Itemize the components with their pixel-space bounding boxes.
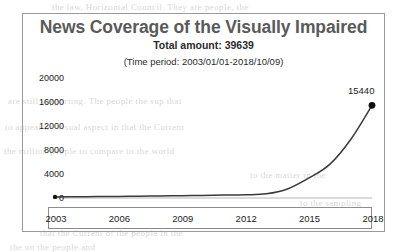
y-axis-tick-label: 12000 [18,121,64,131]
x-axis-tick-label: 2018 [362,213,383,224]
y-axis-tick-label: 0 [18,193,64,203]
x-axis-tick-label: 2009 [172,213,193,224]
y-axis-tick-label: 16000 [18,97,64,107]
x-axis-tick-label: 2006 [109,213,130,224]
x-axis-tick-label: 2003 [45,213,66,224]
x-axis-tick-label: 2015 [299,213,320,224]
data-point-label: 15440 [348,85,374,96]
chart-subtitle-total-amount: Total amount: 39639 [22,39,385,51]
ghost-text-line: the law, Horizontal Council. They are pe… [52,2,249,12]
x-axis-tick-label: 2012 [236,213,257,224]
chart-title: News Coverage of the Visually Impaired [22,17,385,38]
x-axis-label-box: 200320062009201220152018 [48,207,372,229]
chart-time-period-annotation: (Time period: 2003/01/01-2018/10/09) [22,56,385,67]
y-axis-tick-label: 20000 [18,73,64,83]
y-axis-tick-label: 8000 [18,145,64,155]
y-axis-tick-label: 4000 [18,169,64,179]
